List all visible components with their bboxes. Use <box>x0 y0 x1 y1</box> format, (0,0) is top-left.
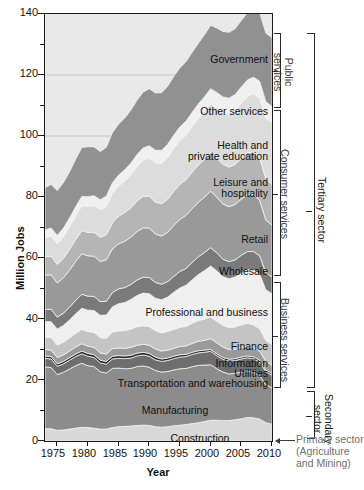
band-label-professional: Professional and business <box>110 307 268 319</box>
y-axis-tickmark <box>38 440 44 441</box>
y-axis-tickmark <box>40 349 44 350</box>
band-label-retail: Retail <box>150 234 268 246</box>
bracket-tertiary-sector <box>307 33 315 388</box>
y-axis-tickmark <box>38 196 44 197</box>
y-axis-tickmark <box>40 44 44 45</box>
band-label-construction: Construction <box>145 433 255 445</box>
y-tick-60: 60 <box>4 251 38 262</box>
x-axis-tickmark <box>240 441 241 446</box>
x-axis-tickmark <box>56 441 57 446</box>
band-label-health-line2: private education <box>140 151 268 163</box>
y-axis-tickmark <box>38 13 44 14</box>
group-label-consumer: Consumer services <box>279 139 290 249</box>
x-axis-tickmark <box>87 441 88 446</box>
y-axis-tickmark <box>40 410 44 411</box>
y-axis-tickmark <box>38 135 44 136</box>
band-label-manufacturing: Manufacturing <box>120 405 230 417</box>
y-axis-tickmark <box>40 227 44 228</box>
x-axis-tickmark <box>179 441 180 446</box>
band-label-leisure-line2: hospitality <box>150 188 268 200</box>
x-axis-tickmark <box>118 441 119 446</box>
group-label-business: Business services <box>279 287 290 393</box>
primary-sector-line3: and Mining) <box>296 458 351 470</box>
y-tick-20: 20 <box>4 374 38 385</box>
y-axis-tickmark <box>40 166 44 167</box>
y-axis-tickmark <box>38 318 44 319</box>
y-tick-40: 40 <box>4 313 38 324</box>
y-axis-tickmark <box>38 257 44 258</box>
primary-sector-line2: (Agriculture <box>296 446 350 458</box>
y-tick-0: 0 <box>4 435 38 446</box>
sector-label-tertiary: Tertiary sector <box>316 160 327 260</box>
x-axis-title: Year <box>98 466 218 478</box>
y-axis-tickmark <box>38 74 44 75</box>
band-label-government: Government <box>150 54 268 66</box>
group-label-public-line2: services <box>272 48 283 96</box>
band-label-other-services: Other services <box>150 106 268 118</box>
group-label-public-line1: Public <box>283 48 294 96</box>
x-axis-tickmark <box>148 441 149 446</box>
x-axis-tickmark <box>271 441 272 446</box>
y-tick-120: 120 <box>4 68 38 79</box>
band-label-wholesale: Wholesale <box>150 266 268 278</box>
y-axis-tickmark <box>40 105 44 106</box>
y-tick-80: 80 <box>4 190 38 201</box>
band-label-finance: Finance <box>150 341 268 353</box>
y-axis-tickmark <box>38 379 44 380</box>
band-label-transportation: Transportation and warehousing <box>80 378 268 390</box>
y-tick-140: 140 <box>4 7 38 18</box>
x-axis-tickmark <box>210 441 211 446</box>
y-tick-100: 100 <box>4 129 38 140</box>
primary-sector-line1: Primary sector <box>296 434 364 446</box>
primary-sector-arrow <box>276 440 295 441</box>
y-axis-tickmark <box>40 288 44 289</box>
x-tick-2010: 2010 <box>249 448 289 459</box>
